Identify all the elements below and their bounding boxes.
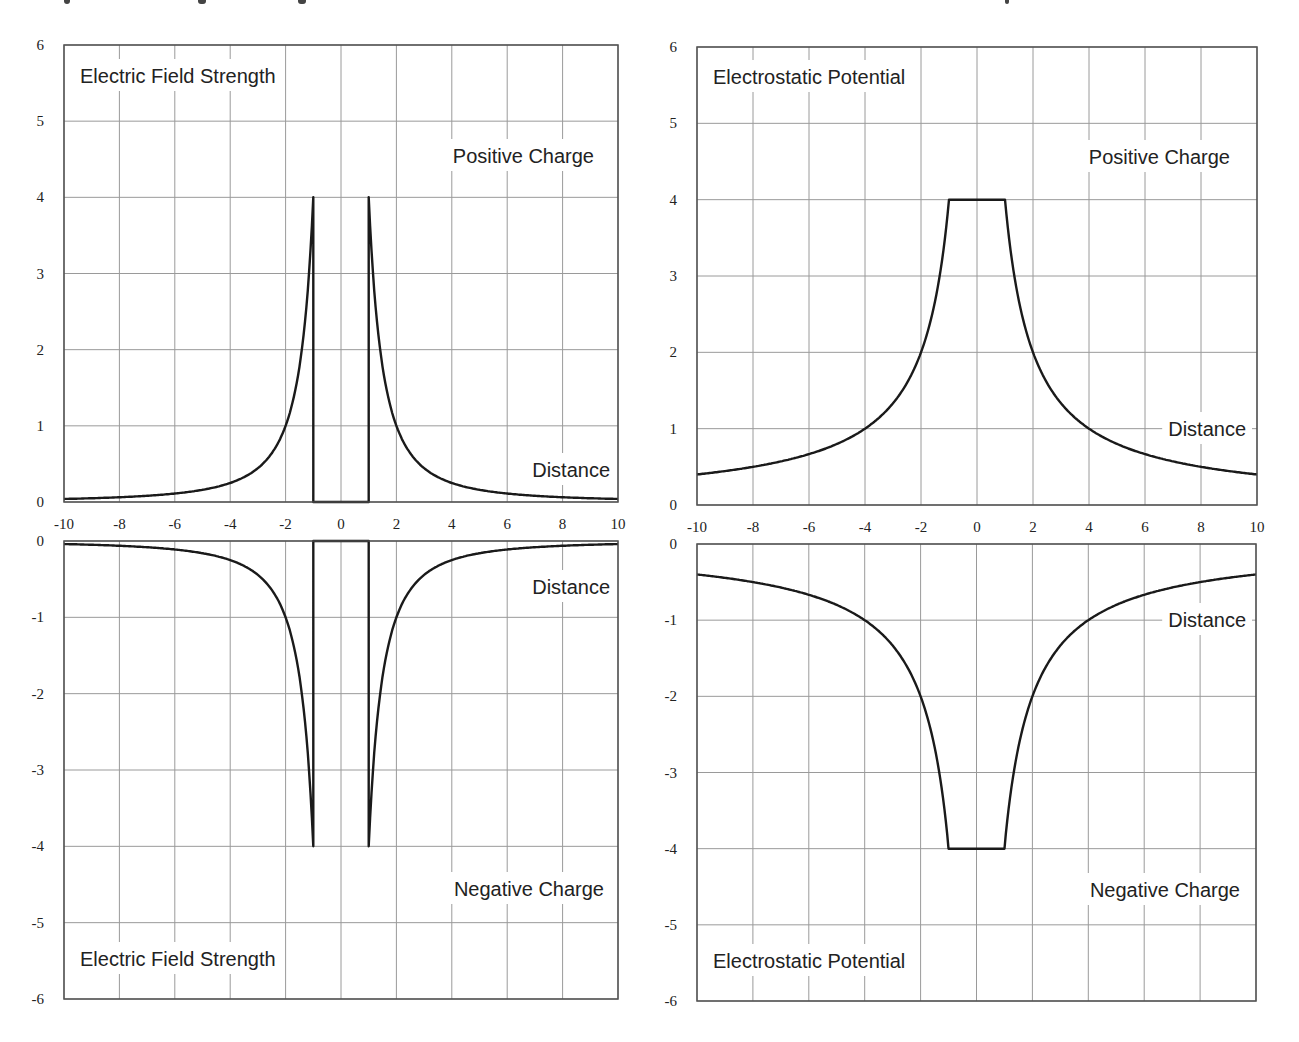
x-tick-label: 6 bbox=[1141, 519, 1149, 535]
panel-field-positive: 0123456-10-8-6-4-20246810Electric Field … bbox=[37, 37, 626, 532]
x-tick-label: 2 bbox=[1029, 519, 1037, 535]
y-tick-label: 3 bbox=[670, 268, 678, 284]
y-tick-label: 0 bbox=[670, 536, 678, 552]
panel-potential-negative: 0-1-2-3-4-5-6DistanceNegative ChargeElec… bbox=[665, 536, 1257, 1009]
y-tick-label: 0 bbox=[37, 494, 45, 510]
x-tick-label: -2 bbox=[279, 516, 292, 532]
y-tick-label: 6 bbox=[37, 37, 45, 53]
x-tick-label: 10 bbox=[1250, 519, 1265, 535]
x-tick-label: -10 bbox=[687, 519, 707, 535]
x-tick-label: 0 bbox=[337, 516, 345, 532]
x-tick-label: 0 bbox=[973, 519, 981, 535]
y-tick-label: -6 bbox=[32, 991, 45, 1007]
plot-annotation-label: Electric Field Strength bbox=[80, 948, 276, 970]
y-tick-label: -3 bbox=[665, 765, 678, 781]
x-tick-label: -4 bbox=[224, 516, 237, 532]
plot-annotation-label: Distance bbox=[1168, 609, 1246, 631]
y-tick-label: -1 bbox=[32, 609, 45, 625]
plot-annotation-label: Distance bbox=[1168, 418, 1246, 440]
y-tick-label: 4 bbox=[670, 192, 678, 208]
x-tick-label: 6 bbox=[503, 516, 511, 532]
y-tick-label: 0 bbox=[670, 497, 678, 513]
y-tick-label: 5 bbox=[37, 113, 45, 129]
plot-annotation-label: Negative Charge bbox=[1090, 879, 1240, 901]
x-tick-label: -8 bbox=[747, 519, 760, 535]
y-tick-label: -5 bbox=[32, 915, 45, 931]
y-tick-label: -3 bbox=[32, 762, 45, 778]
x-tick-label: -4 bbox=[859, 519, 872, 535]
y-tick-label: -1 bbox=[665, 612, 678, 628]
plot-annotation-label: Electrostatic Potential bbox=[713, 66, 905, 88]
figure: 0123456-10-8-6-4-20246810Electric Field … bbox=[0, 0, 1299, 1042]
y-tick-label: 0 bbox=[37, 533, 45, 549]
x-tick-label: -2 bbox=[915, 519, 928, 535]
x-tick-label: 4 bbox=[448, 516, 456, 532]
plot-annotation-label: Positive Charge bbox=[1089, 146, 1230, 168]
x-tick-label: 8 bbox=[1197, 519, 1205, 535]
plot-annotation-label: Positive Charge bbox=[453, 145, 594, 167]
plot-annotation-label: Negative Charge bbox=[454, 878, 604, 900]
panel-field-negative: 0-1-2-3-4-5-6DistanceNegative ChargeElec… bbox=[32, 533, 619, 1007]
y-tick-label: 1 bbox=[37, 418, 45, 434]
x-tick-label: -10 bbox=[54, 516, 74, 532]
clipped-caption-fragment bbox=[298, 0, 306, 4]
y-tick-label: 3 bbox=[37, 266, 45, 282]
y-tick-label: -4 bbox=[32, 838, 45, 854]
clipped-caption-fragment bbox=[198, 0, 206, 4]
x-tick-label: -6 bbox=[169, 516, 182, 532]
y-tick-label: -6 bbox=[665, 993, 678, 1009]
x-tick-label: 4 bbox=[1085, 519, 1093, 535]
y-tick-label: -4 bbox=[665, 841, 678, 857]
y-tick-label: 4 bbox=[37, 189, 45, 205]
y-tick-label: 1 bbox=[670, 421, 678, 437]
plot-annotation-label: Electrostatic Potential bbox=[713, 950, 905, 972]
x-tick-label: -6 bbox=[803, 519, 816, 535]
y-tick-label: -5 bbox=[665, 917, 678, 933]
y-tick-label: 6 bbox=[670, 39, 678, 55]
panel-potential-positive: 0123456-10-8-6-4-20246810Electrostatic P… bbox=[670, 39, 1265, 535]
plot-annotation-label: Distance bbox=[532, 576, 610, 598]
y-tick-label: -2 bbox=[665, 688, 678, 704]
y-tick-label: 5 bbox=[670, 115, 678, 131]
y-tick-label: 2 bbox=[37, 342, 45, 358]
y-tick-label: -2 bbox=[32, 686, 45, 702]
x-tick-label: 8 bbox=[559, 516, 567, 532]
x-tick-label: -8 bbox=[113, 516, 126, 532]
y-tick-label: 2 bbox=[670, 344, 678, 360]
clipped-caption-fragment bbox=[1005, 0, 1009, 4]
plot-annotation-label: Distance bbox=[532, 459, 610, 481]
chart-canvas: 0123456-10-8-6-4-20246810Electric Field … bbox=[0, 0, 1299, 1042]
x-tick-label: 10 bbox=[611, 516, 626, 532]
x-tick-label: 2 bbox=[393, 516, 401, 532]
plot-annotation-label: Electric Field Strength bbox=[80, 65, 276, 87]
